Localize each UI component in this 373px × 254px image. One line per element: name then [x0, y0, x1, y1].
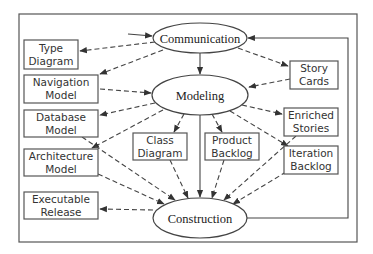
svg-text:Type: Type — [38, 42, 63, 54]
artifact-architecture-model: Architecture Model — [24, 149, 98, 176]
svg-text:Diagram: Diagram — [28, 55, 73, 67]
svg-text:Model: Model — [45, 124, 77, 136]
edge-modeling-product-backlog — [212, 114, 222, 132]
artifact-story-cards: Story Cards — [290, 61, 338, 89]
svg-text:Product: Product — [212, 134, 252, 146]
edge-modeling-enriched-stories — [242, 105, 282, 114]
artifact-database-model: Database Model — [24, 110, 98, 137]
svg-text:Iteration: Iteration — [289, 147, 334, 159]
svg-text:Database: Database — [36, 111, 86, 123]
activity-modeling: Modeling — [152, 75, 248, 115]
entry-arrow — [128, 34, 152, 36]
svg-text:Diagram: Diagram — [137, 147, 182, 159]
dashed-edges — [80, 42, 296, 210]
edge-modeling-class-diagram — [174, 114, 184, 132]
edge-communication-story-cards — [238, 48, 288, 66]
edge-navigation-model-modeling — [100, 89, 151, 93]
svg-text:Enriched: Enriched — [288, 109, 334, 121]
activity-communication: Communication — [153, 23, 247, 53]
svg-text:Architecture: Architecture — [29, 150, 93, 162]
activity-construction: Construction — [153, 198, 247, 238]
modeling-label: Modeling — [176, 89, 225, 103]
svg-text:Stories: Stories — [293, 122, 329, 134]
artifact-executable-release: Executable Release — [24, 192, 98, 219]
svg-text:Class: Class — [146, 134, 174, 146]
edge-communication-type-diagram — [80, 42, 155, 51]
svg-text:Navigation: Navigation — [33, 76, 90, 88]
svg-text:Executable: Executable — [32, 193, 90, 205]
construction-label: Construction — [168, 212, 233, 226]
edge-product-backlog-construction — [212, 160, 224, 198]
artifact-product-backlog: Product Backlog — [205, 133, 259, 160]
artifact-type-diagram: Type Diagram — [24, 40, 78, 69]
svg-text:Model: Model — [45, 89, 77, 101]
artifact-iteration-backlog: Iteration Backlog — [284, 146, 338, 174]
svg-text:Cards: Cards — [299, 75, 329, 87]
svg-text:Model: Model — [45, 163, 77, 175]
svg-text:Backlog: Backlog — [211, 147, 253, 159]
svg-text:Release: Release — [40, 206, 81, 218]
edge-modeling-database-model — [100, 103, 155, 115]
communication-label: Communication — [160, 32, 241, 46]
artifact-navigation-model: Navigation Model — [24, 75, 98, 103]
svg-text:Story: Story — [300, 62, 328, 74]
edge-architecture-model-construction — [98, 174, 164, 204]
edge-communication-navigation-model — [100, 50, 163, 74]
process-diagram: Communication Modeling Construction Type… — [0, 0, 373, 254]
artifact-enriched-stories: Enriched Stories — [284, 108, 338, 136]
svg-text:Backlog: Backlog — [290, 160, 332, 172]
edge-story-cards-modeling — [249, 79, 290, 87]
edge-construction-executable-release — [100, 209, 153, 210]
artifact-class-diagram: Class Diagram — [133, 133, 187, 160]
edge-iteration-backlog-construction — [233, 172, 286, 204]
edge-class-diagram-construction — [170, 160, 188, 198]
